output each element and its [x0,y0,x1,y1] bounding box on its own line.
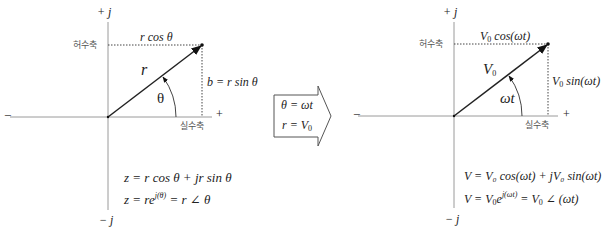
right-pos-real-label: + [563,108,570,120]
right-vector-label: V0 [483,62,496,78]
right-real-axis-label: 실수축 [525,121,549,130]
left-pos-real-label: + [216,108,223,120]
right-pos-imag-label: + j [443,6,457,18]
right-vertical-projection: V0 sin(ωt) [552,75,600,89]
right-imag-axis-label: 허수축 [419,40,443,49]
left-angle-arc [163,77,176,117]
left-real-axis-label: 실수축 [180,122,204,131]
right-horizontal-projection: V0 cos(ωt) [480,30,530,44]
transform-theta-eq: θ = ωt [281,99,313,111]
left-vector-r [108,46,201,117]
left-angle-label: θ [157,91,164,106]
right-equation-rectangular: V = V₀ cos(ωt) + jV₀ sin(ωt) [464,170,601,182]
right-neg-imag-label: − j [445,213,459,225]
transform-r-eq: r = V0 [282,119,312,133]
right-angle-label: ωt [500,91,515,106]
left-equation-polar: z = rej(θ) = r ∠ θ [124,192,210,206]
right-neg-real-label: − [353,108,360,121]
left-imag-axis-label: 허수축 [73,41,97,50]
left-equation-rectangular: z = r cos θ + jr sin θ [124,171,232,184]
left-vertical-projection: b = r sin θ [207,76,258,88]
left-pos-imag-label: + j [97,6,111,18]
transform-arrow-shape [274,86,331,146]
left-neg-real-label: − [4,109,11,122]
left-neg-imag-label: − j [99,214,113,226]
right-equation-polar: V = V0ej(ωt) = V0 ∠ (ωt) [464,191,579,207]
left-vector-label: r [141,62,147,78]
left-horizontal-projection: r cos θ [140,31,173,43]
